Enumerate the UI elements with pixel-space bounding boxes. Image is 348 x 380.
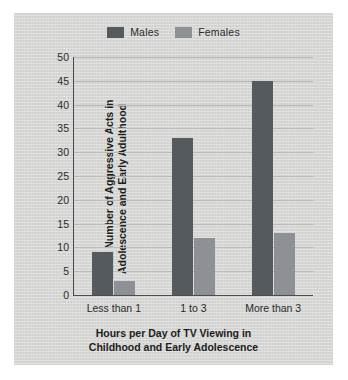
y-axis-tick-label: 10 [57, 241, 69, 253]
legend-swatch-males [107, 27, 124, 38]
x-axis-title-line2: Childhood and Early Adolescence [14, 340, 333, 354]
bar-males-1-to-3[interactable] [172, 138, 193, 295]
bars-container [74, 57, 313, 295]
legend-label-males: Males [130, 26, 159, 38]
x-axis-title-line1: Hours per Day of TV Viewing in [14, 326, 333, 340]
x-axis-tick-label: More than 3 [245, 302, 301, 314]
y-axis-tick-label: 50 [57, 51, 69, 63]
y-axis-tick-label: 25 [57, 170, 69, 182]
legend-label-females: Females [198, 26, 240, 38]
chart-figure: Males Females Mean Number of Aggressive … [14, 13, 333, 365]
bar-females-more-than-3[interactable] [274, 233, 295, 295]
x-axis-tick-label: Less than 1 [87, 302, 141, 314]
y-axis-tick-label: 35 [57, 122, 69, 134]
plot-area: 05101520253035404550 Less than 11 to 3Mo… [73, 57, 313, 296]
legend-swatch-females [175, 27, 192, 38]
y-axis-tick-label: 5 [63, 265, 69, 277]
y-axis-tick-label: 0 [63, 289, 69, 301]
bar-males-more-than-3[interactable] [252, 81, 273, 295]
bar-females-less-than-1[interactable] [114, 281, 135, 295]
chart-legend: Males Females [14, 26, 333, 38]
bar-group [74, 57, 154, 295]
y-axis-tick-label: 30 [57, 146, 69, 158]
bar-group [233, 57, 313, 295]
bar-females-1-to-3[interactable] [194, 238, 215, 295]
x-axis-title: Hours per Day of TV Viewing in Childhood… [14, 326, 333, 354]
y-axis-tick-label: 15 [57, 218, 69, 230]
legend-item-females: Females [175, 26, 240, 38]
bar-group [154, 57, 234, 295]
legend-item-males: Males [107, 26, 159, 38]
y-axis-tick-label: 45 [57, 75, 69, 87]
y-axis-tick-label: 20 [57, 194, 69, 206]
y-axis-tick-label: 40 [57, 99, 69, 111]
x-axis-tick-label: 1 to 3 [180, 302, 206, 314]
bar-males-less-than-1[interactable] [92, 252, 113, 295]
